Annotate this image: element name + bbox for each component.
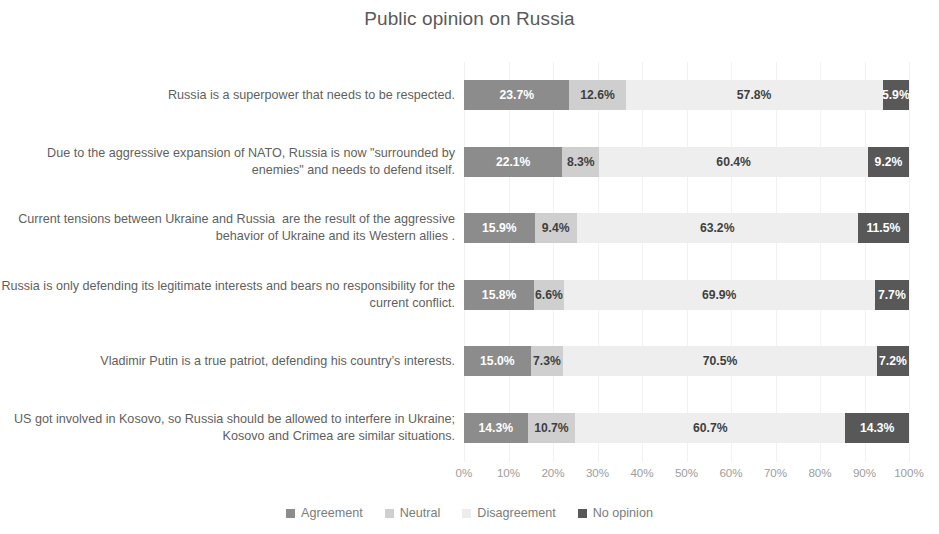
segment-value-label: 60.7% bbox=[693, 421, 728, 435]
segment-value-label: 5.9% bbox=[883, 88, 909, 102]
stacked-bar: 22.1%8.3%60.4%9.2% bbox=[464, 147, 909, 177]
bar-track: 15.0%7.3%70.5%7.2% bbox=[464, 328, 909, 395]
segment-value-label: 63.2% bbox=[700, 221, 735, 235]
segment-value-label: 15.9% bbox=[482, 221, 517, 235]
segment-value-label: 9.4% bbox=[542, 221, 570, 235]
stacked-bar: 14.3%10.7%60.7%14.3% bbox=[464, 413, 909, 443]
bar-segment-agreement: 15.9% bbox=[464, 213, 535, 243]
segment-value-label: 15.0% bbox=[480, 354, 515, 368]
bar-segment-neutral: 7.3% bbox=[531, 346, 563, 376]
stacked-bar: 15.8%6.6%69.9%7.7% bbox=[464, 280, 909, 310]
segment-value-label: 22.1% bbox=[496, 155, 531, 169]
segment-value-label: 12.6% bbox=[580, 88, 615, 102]
segment-value-label: 10.7% bbox=[534, 421, 569, 435]
legend-item-neutral[interactable]: Neutral bbox=[385, 506, 441, 520]
bar-segment-no-opinion: 14.3% bbox=[845, 413, 909, 443]
segment-value-label: 23.7% bbox=[499, 88, 534, 102]
segment-value-label: 69.9% bbox=[702, 288, 737, 302]
segment-value-label: 6.6% bbox=[535, 288, 563, 302]
x-tick-label: 90% bbox=[853, 466, 876, 479]
bar-track: 23.7%12.6%57.8%5.9% bbox=[464, 62, 909, 129]
bar-track: 15.8%6.6%69.9%7.7% bbox=[464, 262, 909, 329]
bar-segment-neutral: 9.4% bbox=[535, 213, 577, 243]
legend-label: Disagreement bbox=[477, 506, 555, 520]
x-tick-label: 30% bbox=[586, 466, 609, 479]
x-tick-label: 0% bbox=[456, 466, 473, 479]
segment-value-label: 57.8% bbox=[737, 88, 772, 102]
bar-segment-neutral: 12.6% bbox=[569, 80, 625, 110]
segment-value-label: 8.3% bbox=[567, 155, 595, 169]
bar-segment-no-opinion: 9.2% bbox=[868, 147, 909, 177]
bar-segment-no-opinion: 5.9% bbox=[883, 80, 909, 110]
category-label: Due to the aggressive expansion of NATO,… bbox=[0, 145, 464, 179]
category-label: Vladimir Putin is a true patriot, defend… bbox=[0, 353, 464, 370]
bar-segment-disagreement: 57.8% bbox=[626, 80, 883, 110]
chart-row: Current tensions between Ukraine and Rus… bbox=[0, 195, 939, 262]
bar-segment-disagreement: 70.5% bbox=[563, 346, 877, 376]
bar-segment-agreement: 15.0% bbox=[464, 346, 531, 376]
legend-swatch-icon bbox=[286, 509, 295, 518]
chart-legend: AgreementNeutralDisagreementNo opinion bbox=[0, 506, 939, 520]
legend-swatch-icon bbox=[462, 509, 471, 518]
x-tick-label: 80% bbox=[808, 466, 831, 479]
chart-title: Public opinion on Russia bbox=[0, 8, 939, 30]
stacked-bar: 23.7%12.6%57.8%5.9% bbox=[464, 80, 909, 110]
bar-segment-disagreement: 60.7% bbox=[575, 413, 845, 443]
bar-segment-agreement: 15.8% bbox=[464, 280, 534, 310]
x-tick-label: 70% bbox=[764, 466, 787, 479]
legend-label: Neutral bbox=[400, 506, 441, 520]
x-tick-label: 100% bbox=[894, 466, 924, 479]
bar-track: 14.3%10.7%60.7%14.3% bbox=[464, 395, 909, 462]
bar-segment-agreement: 14.3% bbox=[464, 413, 528, 443]
segment-value-label: 70.5% bbox=[703, 354, 738, 368]
bar-segment-no-opinion: 7.2% bbox=[877, 346, 909, 376]
legend-item-disagreement[interactable]: Disagreement bbox=[462, 506, 555, 520]
segment-value-label: 7.7% bbox=[878, 288, 906, 302]
legend-label: No opinion bbox=[593, 506, 653, 520]
x-axis: 0%10%20%30%40%50%60%70%80%90%100% bbox=[464, 466, 909, 484]
chart-row: Due to the aggressive expansion of NATO,… bbox=[0, 129, 939, 196]
legend-item-no-opinion[interactable]: No opinion bbox=[578, 506, 653, 520]
bar-segment-neutral: 10.7% bbox=[528, 413, 576, 443]
bar-segment-disagreement: 63.2% bbox=[577, 213, 858, 243]
bar-track: 15.9%9.4%63.2%11.5% bbox=[464, 195, 909, 262]
x-tick-label: 10% bbox=[497, 466, 520, 479]
chart-row: US got involved in Kosovo, so Russia sho… bbox=[0, 395, 939, 462]
segment-value-label: 11.5% bbox=[866, 221, 900, 235]
chart-row: Russia is only defending its legitimate … bbox=[0, 262, 939, 329]
x-tick-label: 40% bbox=[630, 466, 653, 479]
segment-value-label: 14.3% bbox=[479, 421, 514, 435]
bar-segment-neutral: 6.6% bbox=[534, 280, 563, 310]
segment-value-label: 14.3% bbox=[860, 421, 895, 435]
category-label: US got involved in Kosovo, so Russia sho… bbox=[0, 411, 464, 445]
legend-item-agreement[interactable]: Agreement bbox=[286, 506, 363, 520]
bar-segment-disagreement: 69.9% bbox=[564, 280, 875, 310]
legend-label: Agreement bbox=[301, 506, 363, 520]
x-tick-label: 50% bbox=[675, 466, 698, 479]
bar-segment-agreement: 22.1% bbox=[464, 147, 562, 177]
chart-row: Russia is a superpower that needs to be … bbox=[0, 62, 939, 129]
stacked-bar: 15.9%9.4%63.2%11.5% bbox=[464, 213, 909, 243]
bar-segment-no-opinion: 7.7% bbox=[875, 280, 909, 310]
category-label: Russia is only defending its legitimate … bbox=[0, 278, 464, 312]
segment-value-label: 60.4% bbox=[716, 155, 751, 169]
category-label: Current tensions between Ukraine and Rus… bbox=[0, 211, 464, 245]
bar-segment-no-opinion: 11.5% bbox=[858, 213, 909, 243]
x-tick-label: 20% bbox=[541, 466, 564, 479]
legend-swatch-icon bbox=[578, 509, 587, 518]
category-label: Russia is a superpower that needs to be … bbox=[0, 87, 464, 104]
bar-segment-disagreement: 60.4% bbox=[599, 147, 868, 177]
x-tick-label: 60% bbox=[719, 466, 742, 479]
chart-row: Vladimir Putin is a true patriot, defend… bbox=[0, 328, 939, 395]
segment-value-label: 7.2% bbox=[879, 354, 907, 368]
bar-track: 22.1%8.3%60.4%9.2% bbox=[464, 129, 909, 196]
legend-swatch-icon bbox=[385, 509, 394, 518]
chart-container: Public opinion on Russia Russia is a sup… bbox=[0, 0, 939, 534]
segment-value-label: 15.8% bbox=[482, 288, 517, 302]
segment-value-label: 7.3% bbox=[533, 354, 561, 368]
bar-segment-neutral: 8.3% bbox=[562, 147, 599, 177]
bar-segment-agreement: 23.7% bbox=[464, 80, 569, 110]
plot-area: Russia is a superpower that needs to be … bbox=[0, 62, 939, 462]
stacked-bar: 15.0%7.3%70.5%7.2% bbox=[464, 346, 909, 376]
segment-value-label: 9.2% bbox=[875, 155, 903, 169]
